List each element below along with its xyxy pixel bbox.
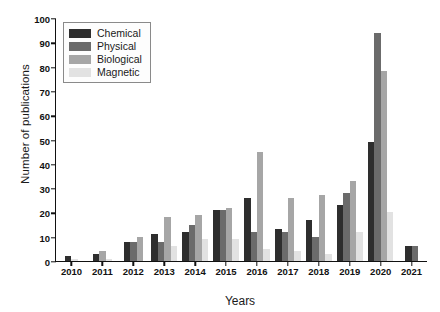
bar-magnetic-2017 bbox=[294, 251, 300, 261]
x-tick-label: 2011 bbox=[92, 266, 113, 277]
bar-magnetic-2010 bbox=[71, 259, 77, 261]
bar-magnetic-2015 bbox=[232, 239, 238, 261]
x-tick-label: 2010 bbox=[61, 266, 82, 277]
bar-magnetic-2013 bbox=[171, 246, 177, 261]
bar-biological-2012 bbox=[137, 237, 143, 261]
bar-group: 2013 bbox=[149, 19, 180, 261]
bar-magnetic-2011 bbox=[106, 259, 112, 261]
chart-legend: ChemicalPhysicalBiologicalMagnetic bbox=[63, 22, 151, 83]
legend-item-biological: Biological bbox=[69, 53, 142, 65]
y-tick-mark bbox=[51, 261, 56, 262]
legend-swatch-icon bbox=[69, 68, 91, 77]
bar-magnetic-2016 bbox=[263, 249, 269, 261]
bar-group: 2014 bbox=[180, 19, 211, 261]
legend-label: Biological bbox=[97, 53, 142, 65]
bar-group: 2017 bbox=[272, 19, 303, 261]
bar-group: 2015 bbox=[211, 19, 242, 261]
bar-group: 2016 bbox=[242, 19, 273, 261]
x-axis-label: Years bbox=[55, 294, 425, 308]
bar-physical-2021 bbox=[412, 246, 418, 261]
legend-item-physical: Physical bbox=[69, 40, 142, 52]
x-tick-label: 2012 bbox=[123, 266, 144, 277]
x-tick-label: 2016 bbox=[246, 266, 267, 277]
bar-biological-2016 bbox=[257, 152, 263, 261]
x-tick-label: 2013 bbox=[154, 266, 175, 277]
bar-group: 2018 bbox=[303, 19, 334, 261]
publications-bar-chart: Number of publications Years 01020304050… bbox=[0, 0, 440, 312]
bar-magnetic-2020 bbox=[387, 212, 393, 261]
legend-swatch-icon bbox=[69, 55, 91, 64]
bar-magnetic-2014 bbox=[202, 239, 208, 261]
y-axis-label: Number of publications bbox=[19, 39, 31, 209]
x-tick-label: 2020 bbox=[370, 266, 391, 277]
legend-swatch-icon bbox=[69, 29, 91, 38]
x-tick-label: 2017 bbox=[277, 266, 298, 277]
legend-swatch-icon bbox=[69, 42, 91, 51]
x-tick-label: 2018 bbox=[308, 266, 329, 277]
legend-item-magnetic: Magnetic bbox=[69, 66, 142, 78]
bar-group: 2020 bbox=[365, 19, 396, 261]
x-tick-label: 2019 bbox=[339, 266, 360, 277]
bar-group: 2021 bbox=[396, 19, 427, 261]
bar-group: 2019 bbox=[334, 19, 365, 261]
bar-biological-2018 bbox=[319, 195, 325, 261]
x-tick-label: 2021 bbox=[401, 266, 422, 277]
legend-label: Chemical bbox=[97, 27, 141, 39]
bar-magnetic-2019 bbox=[356, 232, 362, 261]
legend-label: Physical bbox=[97, 40, 136, 52]
bar-magnetic-2018 bbox=[325, 254, 331, 261]
legend-label: Magnetic bbox=[97, 66, 140, 78]
legend-item-chemical: Chemical bbox=[69, 27, 142, 39]
x-tick-label: 2014 bbox=[185, 266, 206, 277]
x-tick-label: 2015 bbox=[215, 266, 236, 277]
